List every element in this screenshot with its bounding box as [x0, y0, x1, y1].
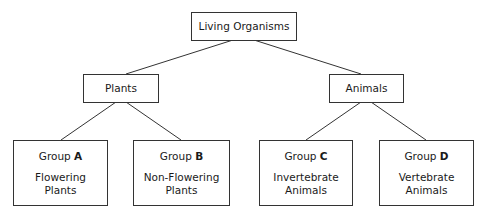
- group-description: Non-FloweringPlants: [144, 171, 220, 197]
- node-animals: Animals: [329, 74, 404, 103]
- group-title: Group B: [160, 150, 203, 163]
- group-description: FloweringPlants: [35, 171, 86, 197]
- node-label: Animals: [346, 82, 388, 95]
- group-title: Group C: [284, 150, 327, 163]
- group-description: VertebrateAnimals: [399, 171, 455, 197]
- node-label: Plants: [105, 82, 137, 95]
- node-living-organisms: Living Organisms: [191, 12, 297, 41]
- node-group-d: Group D VertebrateAnimals: [379, 140, 474, 206]
- group-description: InvertebrateAnimals: [273, 171, 338, 197]
- node-label: Living Organisms: [199, 20, 290, 33]
- node-group-c: Group C InvertebrateAnimals: [259, 140, 353, 206]
- node-group-a: Group A FloweringPlants: [13, 140, 108, 206]
- node-group-b: Group B Non-FloweringPlants: [133, 140, 230, 206]
- group-title: Group A: [39, 150, 82, 163]
- node-plants: Plants: [83, 74, 159, 103]
- group-title: Group D: [404, 150, 448, 163]
